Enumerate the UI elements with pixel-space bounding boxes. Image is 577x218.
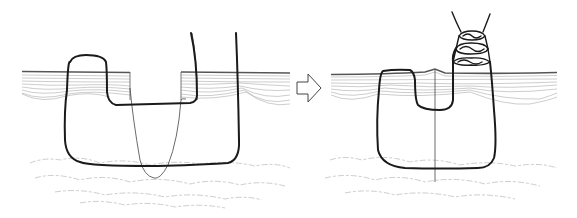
suture-thin-left <box>130 33 197 178</box>
knot <box>452 12 490 65</box>
suture-diagram <box>0 0 577 218</box>
panel-before <box>22 33 290 208</box>
suture-thick-right <box>377 48 495 169</box>
fat-layer-right <box>325 157 557 199</box>
skin-layer-closed <box>331 69 557 104</box>
suture-thick-left <box>65 33 239 166</box>
panel-after <box>325 12 557 199</box>
skin-layer-right <box>130 72 290 105</box>
arrow-right-icon <box>297 74 321 102</box>
skin-layer-left <box>22 72 130 100</box>
